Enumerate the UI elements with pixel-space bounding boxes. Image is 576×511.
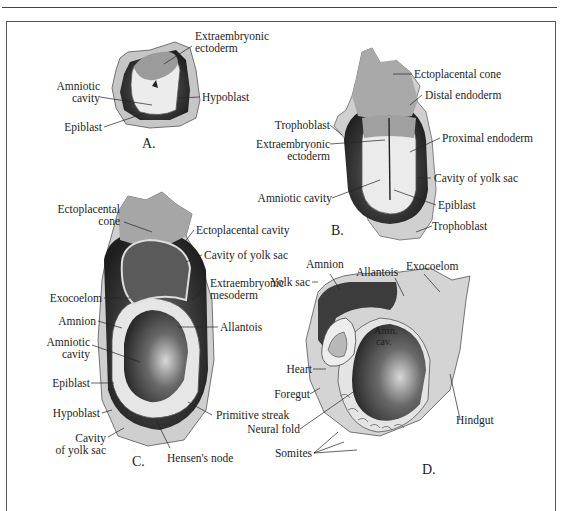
label-b-distal-endoderm: Distal endoderm [425,89,501,101]
label-b-proximal-endoderm: Proximal endoderm [442,132,533,144]
label-c-primitive-streak: Primitive streak [216,409,289,421]
label-c-ectoplacental-cavity: Ectoplacental cavity [196,224,290,236]
label-a-extraembryonic-ectoderm-1: Extraembryonic [195,30,269,42]
label-d-yolk-sac: Yolk sac [250,276,310,288]
panel-letter-a: A. [142,136,156,152]
label-d-somites: Somites [250,447,312,459]
label-c-ectoplacental-cone-2: cone [40,215,120,227]
panel-letter-d: D. [422,462,436,478]
label-d-exocoelom: Exocoelom [406,260,458,272]
label-a-amniotic-cavity-1: Amniotic [40,80,100,92]
label-d-heart: Heart [250,363,312,375]
panel-d-drawing [306,268,470,436]
label-d-foregut: Foregut [250,388,310,400]
label-c-cavity-of-yolk-sac-top: Cavity of yolk sac [204,249,288,261]
label-c-epiblast: Epiblast [30,377,90,389]
label-c-cavity-of-yolk-sac-2: of yolk sac [30,444,106,456]
label-c-hensens-node: Hensen's node [167,452,233,464]
label-b-ectoplacental-cone: Ectoplacental cone [414,68,501,80]
panel-letter-c: C. [132,454,145,470]
label-d-amnion: Amnion [306,258,344,270]
label-c-ectoplacental-cone-1: Ectoplacental [40,203,120,215]
label-c-amnion: Amnion [30,315,96,327]
label-d-neural-fold: Neural fold [230,423,300,435]
label-c-amniotic-cavity-2: cavity [30,348,90,360]
label-b-amniotic-cavity: Amniotic cavity [224,192,332,204]
label-d-amn-cav-2: cav. [376,336,392,348]
label-c-allantois: Allantois [220,321,262,333]
label-c-amniotic-cavity-1: Amniotic [30,336,90,348]
panel-a-drawing [112,42,200,128]
label-c-cavity-of-yolk-sac-1: Cavity [30,432,106,444]
label-c-extraembryonic-mesoderm-2: mesoderm [210,289,258,301]
label-b-epiblast: Epiblast [438,199,476,211]
label-b-extraembryonic-ectoderm-2: ectoderm [240,150,330,162]
label-b-trophoblast-bottom: Trophoblast [432,220,487,232]
label-c-hypoblast: Hypoblast [30,407,100,419]
label-a-hypoblast: Hypoblast [202,91,249,103]
label-a-amniotic-cavity-2: cavity [40,92,100,104]
label-a-extraembryonic-ectoderm-2: ectoderm [195,42,238,54]
label-d-allantois: Allantois [356,266,398,278]
label-b-cavity-of-yolk-sac: Cavity of yolk sac [434,172,518,184]
label-c-exocoelom: Exocoelom [30,292,102,304]
panel-letter-b: B. [331,223,344,239]
label-b-extraembryonic-ectoderm-1: Extraembryonic [240,138,330,150]
label-d-hindgut: Hindgut [456,414,494,426]
label-a-epiblast: Epiblast [40,121,102,133]
label-b-trophoblast-top: Trophoblast [262,119,330,131]
